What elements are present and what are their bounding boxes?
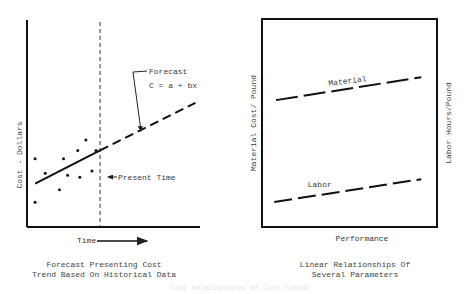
chart-title-line2: Trend Based On Historical Data — [32, 270, 176, 279]
present-time-label: Present Time — [118, 173, 176, 182]
chart-title: Forecast Presenting Cost — [46, 260, 161, 269]
chart-title-line2: Several Parameters — [312, 270, 399, 279]
x-axis-label: Time — [77, 236, 96, 245]
y-axis-label-right: Labor Hours/Pound — [444, 82, 453, 164]
series-label-labor: Labor — [308, 180, 332, 189]
forecast-chart: Forecast C = a + bx Present Time Cost - … — [15, 20, 200, 279]
scatter-point — [76, 149, 79, 152]
forecast-line — [100, 103, 195, 151]
scatter-points — [34, 139, 98, 204]
trend-line — [35, 150, 100, 183]
x-axis-label: Performance — [336, 234, 389, 243]
scatter-point — [84, 139, 87, 142]
scatter-point — [58, 188, 61, 191]
y-axis-label: Cost - Dollars — [15, 121, 24, 188]
scatter-point — [34, 201, 37, 204]
plot-frame — [262, 19, 437, 227]
scatter-point — [90, 170, 93, 173]
forecast-label: Forecast — [149, 67, 187, 76]
scatter-point — [44, 172, 47, 175]
scatter-point — [34, 157, 37, 160]
series-line-labor — [274, 179, 421, 202]
faint-footer-caption: Cost Relationships of Cost Trends — [171, 284, 310, 292]
linear-relationships-chart: Material Labor Material Cost/ Pound Labo… — [249, 19, 453, 279]
scatter-point — [62, 157, 65, 160]
forecast-leader-arrow — [133, 71, 147, 131]
equation-label: C = a + bx — [149, 81, 197, 90]
figure: Forecast C = a + bx Present Time Cost - … — [0, 0, 470, 294]
scatter-point — [78, 176, 81, 179]
y-axis-label-left: Material Cost/ Pound — [249, 75, 258, 171]
chart-title: Linear Relationships Of — [300, 260, 411, 269]
scatter-point — [66, 174, 69, 177]
